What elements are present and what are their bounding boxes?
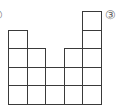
grid-square — [27, 48, 46, 68]
grid-square — [82, 67, 102, 86]
grid-square — [64, 67, 83, 86]
grid-square — [82, 85, 102, 105]
grid-square — [82, 48, 102, 68]
grid-square — [82, 30, 102, 49]
grid-square — [27, 85, 46, 105]
grid-square — [64, 48, 83, 68]
square-grid-figure — [0, 0, 123, 107]
grid-square — [27, 67, 46, 86]
grid-square — [45, 67, 65, 86]
grid-square — [8, 30, 28, 49]
grid-square — [45, 85, 65, 105]
grid-square — [8, 67, 28, 86]
grid-square — [82, 11, 102, 31]
grid-square — [64, 85, 83, 105]
grid-square — [8, 85, 28, 105]
grid-square — [8, 48, 28, 68]
